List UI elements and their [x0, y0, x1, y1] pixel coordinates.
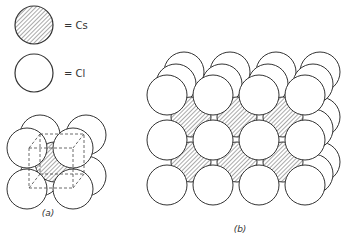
caption-b: (b)	[234, 224, 247, 234]
panel-b-lattice	[147, 52, 340, 205]
cl-legend-icon	[15, 54, 53, 92]
caption-a: (a)	[42, 208, 55, 218]
panel-a-unit-cell	[7, 115, 106, 209]
cl-legend-label: = Cl	[64, 68, 85, 79]
legend: = Cs = Cl	[15, 6, 88, 92]
cscl-structure-diagram: = Cs = Cl (a)	[0, 0, 343, 240]
cs-legend-icon	[15, 6, 53, 44]
cs-legend-label: = Cs	[64, 20, 88, 31]
